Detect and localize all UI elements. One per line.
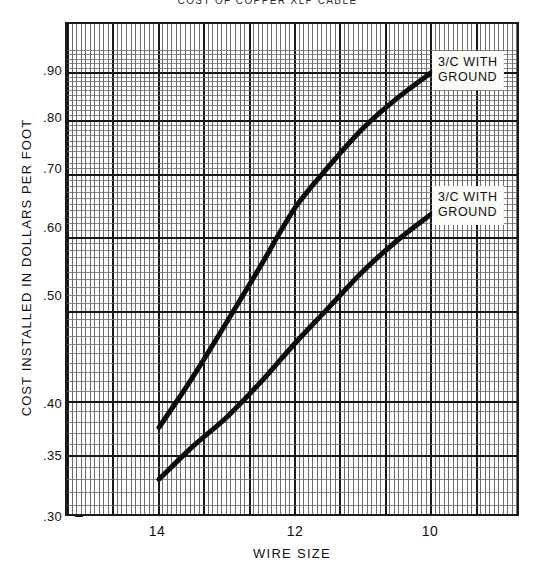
y-tick-label: .90 [22, 63, 62, 78]
legend-callout-upper-line1: 3/C WITH [438, 55, 498, 70]
plot-area [65, 22, 519, 516]
x-axis-title: WIRE SIZE [65, 546, 519, 561]
curve-lower-3c-with-ground [159, 214, 432, 480]
x-tick-label: 10 [410, 523, 450, 539]
y-tick-label: .35 [22, 448, 62, 463]
y-axis-title: COST INSTALLED IN DOLLARS PER FOOT [19, 88, 34, 448]
legend-callout-upper-line2: GROUND [438, 70, 498, 85]
y-tick-label: .30 [22, 509, 62, 524]
legend-callout-lower-line1: 3/C WITH [438, 190, 498, 205]
x-tick-label: 12 [275, 523, 315, 539]
curve-upper-3c-with-ground [159, 72, 432, 427]
chart-container: COST OF COPPER XLP CABLE .90.80.70.60.50… [0, 0, 535, 571]
x-tick-label: 14 [137, 523, 177, 539]
legend-callout-lower-line2: GROUND [438, 205, 498, 220]
chart-title: COST OF COPPER XLP CABLE [0, 0, 535, 4]
data-curves [67, 24, 519, 516]
legend-callout-lower: 3/C WITH GROUND [433, 187, 503, 224]
legend-callout-upper: 3/C WITH GROUND [433, 52, 503, 89]
